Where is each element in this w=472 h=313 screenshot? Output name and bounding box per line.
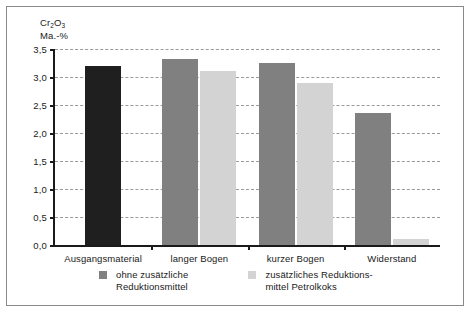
bar-2-series-0 <box>259 63 295 245</box>
y-axis-tick-mark <box>50 217 55 219</box>
y-axis-tick-label: 3,0 <box>33 72 47 83</box>
y-axis-tick-label: 2,5 <box>33 100 47 111</box>
gridline <box>55 49 440 50</box>
legend-label-series-1: ohne zusätzliche Reduktionsmittel <box>116 269 188 293</box>
chart-legend: ohne zusätzliche Reduktionsmittel zusätz… <box>53 269 438 293</box>
x-axis-category-label: Widerstand <box>367 253 416 264</box>
bar-2-series-1 <box>297 83 333 245</box>
bar-1-series-0 <box>162 59 198 245</box>
subscript-3: 3 <box>61 22 65 29</box>
x-axis-category-label: Ausgangsmaterial <box>64 253 142 264</box>
legend-label-series-2: zusätzliches Reduktions- mittel Petrolko… <box>265 269 372 293</box>
bar-3-series-1 <box>393 239 429 245</box>
x-axis-tick-mark <box>248 245 250 250</box>
y-axis-tick-label: 0,0 <box>33 240 47 251</box>
bar-1-series-1 <box>200 71 236 245</box>
subscript-2: 2 <box>50 22 54 29</box>
y-axis-tick-label: 1,0 <box>33 184 47 195</box>
bar-3-series-0 <box>355 113 391 245</box>
y-axis-tick-mark <box>50 245 55 247</box>
y-axis-tick-label: 1,5 <box>33 156 47 167</box>
y-axis-title: Cr2O3 Ma.-% <box>40 17 68 41</box>
y-axis-tick-mark <box>50 49 55 51</box>
y-axis-tick-mark <box>50 161 55 163</box>
chart-figure-frame: Cr2O3 Ma.-% 0,00,51,01,52,02,53,03,5Ausg… <box>6 6 464 306</box>
y-axis-tick-mark <box>50 133 55 135</box>
plot-area: 0,00,51,01,52,02,53,03,5Ausgangsmaterial… <box>53 49 440 247</box>
y-axis-tick-mark <box>50 189 55 191</box>
legend-entry-ohne-zusaetzliche: ohne zusätzliche Reduktionsmittel <box>99 269 188 293</box>
x-axis-category-label: kurzer Bogen <box>267 253 325 264</box>
bar-0-series-0 <box>85 66 121 245</box>
legend-swatch-icon-dark <box>99 271 107 279</box>
y-axis-tick-mark <box>50 105 55 107</box>
y-axis-tick-mark <box>50 77 55 79</box>
y-axis-tick-label: 3,5 <box>33 44 47 55</box>
x-axis-tick-mark <box>344 245 346 250</box>
legend-swatch-icon-light <box>248 271 256 279</box>
y-axis-tick-label: 0,5 <box>33 212 47 223</box>
y-axis-tick-label: 2,0 <box>33 128 47 139</box>
y-axis-title-formula: Cr2O3 <box>40 17 68 30</box>
x-axis-tick-mark <box>151 245 153 250</box>
legend-entry-petrolkoks: zusätzliches Reduktions- mittel Petrolko… <box>248 269 372 293</box>
x-axis-category-label: langer Bogen <box>171 253 229 264</box>
y-axis-title-unit: Ma.-% <box>40 30 68 42</box>
